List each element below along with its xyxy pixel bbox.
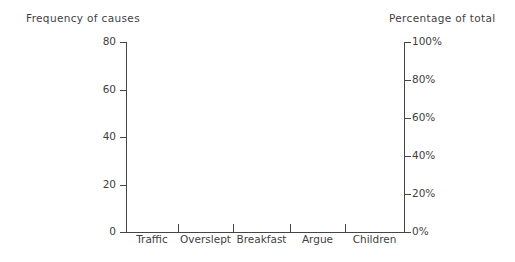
y-axis-right-tick — [405, 156, 411, 157]
x-axis-category-label-overslept: Overslept — [178, 233, 233, 245]
x-axis-tick — [126, 224, 127, 233]
y-axis-left-tick-label: 20 — [76, 178, 116, 190]
y-axis-left-tick — [120, 137, 126, 138]
pareto-chart: Frequency of causes Percentage of total … — [0, 0, 515, 262]
y-axis-left-line — [126, 42, 127, 233]
y-axis-left-tick-label: 40 — [76, 130, 116, 142]
y-axis-right-tick — [405, 42, 411, 43]
left-axis-title: Frequency of causes — [26, 12, 140, 24]
y-axis-left-tick — [120, 42, 126, 43]
plot-area — [127, 42, 404, 232]
x-axis-category-label-traffic: Traffic — [126, 233, 178, 245]
y-axis-right-tick-label: 80% — [412, 73, 435, 85]
x-axis-tick — [404, 224, 405, 233]
y-axis-right-tick-label: 40% — [412, 149, 435, 161]
y-axis-right-tick-label: 0% — [412, 225, 429, 237]
y-axis-right-tick-label: 20% — [412, 187, 435, 199]
y-axis-left-tick-label: 80 — [76, 35, 116, 47]
x-axis-tick — [178, 224, 179, 233]
y-axis-right-tick-label: 60% — [412, 111, 435, 123]
right-axis-title: Percentage of total — [389, 12, 496, 24]
y-axis-left-tick — [120, 185, 126, 186]
y-axis-left-tick — [120, 90, 126, 91]
y-axis-right-tick-label: 100% — [412, 35, 442, 47]
y-axis-right-line — [404, 42, 405, 233]
y-axis-right-tick — [405, 118, 411, 119]
x-axis-tick — [290, 224, 291, 233]
y-axis-right-tick — [405, 80, 411, 81]
y-axis-left-tick-label: 0 — [76, 225, 116, 237]
y-axis-right-tick — [405, 232, 411, 233]
x-axis-tick — [233, 224, 234, 233]
x-axis-tick — [345, 224, 346, 233]
x-axis-category-label-argue: Argue — [290, 233, 345, 245]
y-axis-right-tick — [405, 194, 411, 195]
y-axis-left-tick-label: 60 — [76, 83, 116, 95]
x-axis-category-label-children: Children — [345, 233, 404, 245]
x-axis-category-label-breakfast: Breakfast — [233, 233, 290, 245]
